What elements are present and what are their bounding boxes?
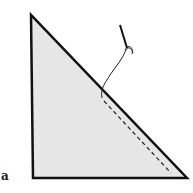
figure-label: a bbox=[1, 169, 9, 183]
fabric-triangle bbox=[31, 15, 187, 178]
needle-icon bbox=[120, 25, 127, 48]
thread-icon bbox=[102, 48, 133, 98]
sewing-diagram bbox=[0, 0, 193, 193]
